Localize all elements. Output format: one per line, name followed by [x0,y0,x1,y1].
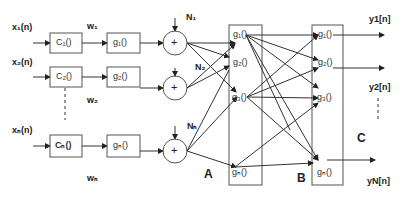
layer-b-node-n: gₙ() [317,168,332,177]
noise-label-1: N₁ [186,13,196,22]
encoder-label-n: Cₙ() [55,141,72,150]
layer-b-node-3: g₃() [317,93,332,102]
nonlin-label-1: g₁() [113,38,127,47]
layer-a-box [229,25,262,185]
output-label-1: y1[n] [369,15,391,24]
input-label-1: x₁(n) [12,23,32,32]
section-c-label: C [357,132,366,144]
noise-label-n: Nₙ [187,122,198,131]
input-label-n: xₙ(n) [12,126,33,135]
layer-a-node-3: g₃() [232,93,247,102]
nonlin-label-n: gₙ() [113,141,128,150]
weight-label-2: w₂ [87,96,98,105]
weight-label-1: w₁ [87,22,98,31]
encoder-label-2: C₂() [56,72,72,81]
section-b-label: B [297,172,306,184]
weight-label-n: wₙ [87,174,98,183]
layer-a-node-2: g₂() [233,58,248,67]
encoder-label-1: C₁() [56,38,72,47]
layer-a-node-n: gₙ() [232,168,247,177]
nonlin-label-2: g₂() [113,72,128,81]
sum-symbol-1: + [171,37,177,48]
layer-b-box [312,25,343,185]
layer-b-node-2: g₂() [318,58,333,67]
layer-a-node-1: g₁() [233,30,247,39]
diagram-lines [0,0,404,198]
neural-network-diagram: x₁(n) x₂(n) xₙ(n) C₁() C₂() Cₙ() g₁() g₂… [0,0,404,198]
sum-symbol-n: + [171,145,177,156]
layer-b-node-1: g₁() [318,30,332,39]
section-a-label: A [204,168,213,180]
sum-symbol-2: + [171,82,177,93]
noise-label-2: N₂ [195,63,206,72]
input-label-2: x₂(n) [12,58,33,67]
output-label-n: yN[n] [367,177,390,186]
output-label-2: y2[n] [369,83,391,92]
